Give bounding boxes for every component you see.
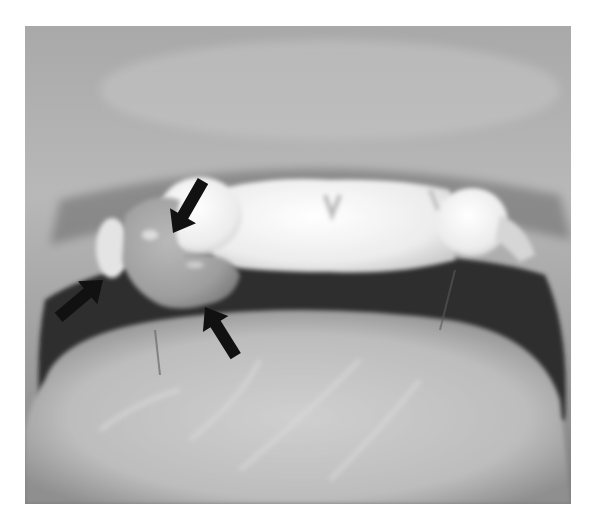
tongue	[25, 310, 571, 504]
lip-highlight	[100, 40, 560, 140]
clinical-photo	[25, 26, 571, 504]
